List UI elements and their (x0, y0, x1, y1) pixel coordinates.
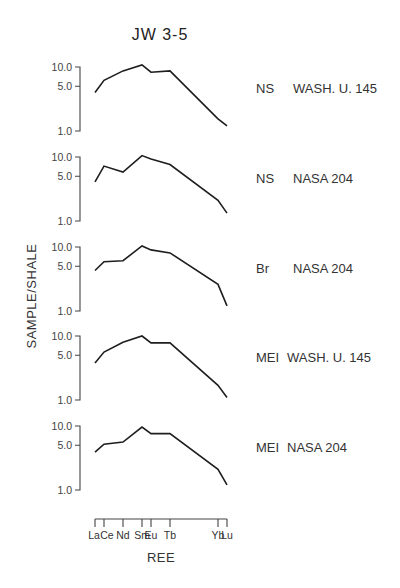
y-axis-line (75, 426, 80, 490)
y-tick-label: 10.0 (52, 61, 73, 73)
panel-4: 10.05.01.0MEIWASH. U. 145 (52, 330, 371, 406)
x-axis-line (95, 519, 227, 527)
y-tick-label: 5.0 (57, 170, 72, 182)
y-axis-title: SAMPLE/SHALE (24, 244, 39, 349)
ree-pattern-chart: JW 3-5 SAMPLE/SHALE 10.05.01.0NSWASH. U.… (0, 0, 400, 588)
series-label-right: WASH. U. 145 (293, 81, 377, 96)
y-tick-label: 5.0 (57, 80, 72, 92)
panels: 10.05.01.0NSWASH. U. 14510.05.01.0NSNASA… (52, 61, 377, 496)
panel-5: 10.05.01.0MEINASA 204 (52, 420, 347, 496)
x-axis-title: REE (147, 550, 175, 565)
panel-2: 10.05.01.0NSNASA 204 (52, 151, 353, 227)
y-tick-label: 5.0 (57, 439, 72, 451)
series-line (95, 246, 227, 306)
y-tick-label: 1.0 (57, 215, 72, 227)
x-axis: LaCeNdSmEuTbYbLu (88, 519, 233, 541)
series-label-right: NASA 204 (293, 261, 353, 276)
y-tick-label: 10.0 (52, 151, 73, 163)
x-tick-label-nd: Nd (116, 529, 130, 541)
series-label-left: MEI (256, 350, 279, 365)
y-tick-label: 1.0 (57, 394, 72, 406)
y-tick-label: 1.0 (57, 484, 72, 496)
y-axis-line (75, 157, 80, 221)
series-label-right: NASA 204 (293, 171, 353, 186)
y-axis-line (75, 336, 80, 400)
series-label-left: MEI (256, 440, 279, 455)
series-line (95, 427, 227, 485)
series-line (95, 65, 227, 126)
x-tick-label-eu: Eu (145, 529, 158, 541)
series-label-left: Br (256, 261, 270, 276)
panel-1: 10.05.01.0NSWASH. U. 145 (52, 61, 377, 137)
x-tick-label-ce: Ce (100, 529, 114, 541)
y-tick-label: 5.0 (57, 349, 72, 361)
series-label-left: NS (256, 171, 274, 186)
y-tick-label: 10.0 (52, 241, 73, 253)
y-tick-label: 10.0 (52, 330, 73, 342)
x-tick-label-la: La (88, 529, 100, 541)
y-axis-line (75, 247, 80, 311)
chart-title: JW 3-5 (132, 26, 189, 43)
x-tick-label-lu: Lu (221, 529, 233, 541)
y-tick-label: 1.0 (57, 305, 72, 317)
y-tick-label: 5.0 (57, 260, 72, 272)
x-tick-label-tb: Tb (164, 529, 176, 541)
y-tick-label: 1.0 (57, 125, 72, 137)
panel-3: 10.05.01.0BrNASA 204 (52, 241, 353, 317)
y-axis-line (75, 67, 80, 131)
series-line (95, 336, 227, 397)
y-tick-label: 10.0 (52, 420, 73, 432)
series-label-right: NASA 204 (287, 440, 347, 455)
series-label-right: WASH. U. 145 (287, 350, 371, 365)
series-label-left: NS (256, 81, 274, 96)
series-line (95, 156, 227, 214)
